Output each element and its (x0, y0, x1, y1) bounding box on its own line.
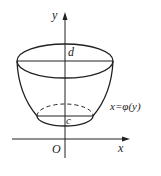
y-axis-label: y (52, 9, 57, 21)
x-axis (12, 137, 130, 142)
x-axis-arrow-icon (122, 137, 130, 142)
bottom-level-label-c: c (66, 115, 71, 126)
diagram-canvas (0, 0, 161, 176)
top-level-label-d: d (68, 46, 74, 58)
y-axis-arrow-icon (63, 12, 68, 20)
x-axis-label: x (118, 142, 123, 154)
bowl-left-side (17, 61, 37, 116)
curve-label: x=φ(y) (110, 101, 141, 112)
origin-label: O (52, 143, 61, 155)
y-axis (63, 12, 68, 158)
solid-of-revolution-diagram: y d c x=φ(y) O x (0, 0, 161, 176)
